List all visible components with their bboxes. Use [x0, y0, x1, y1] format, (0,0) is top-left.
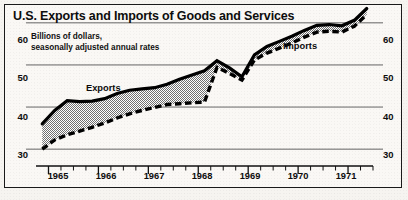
x-axis-label-1967: 1967: [132, 171, 176, 181]
x-axis-label-1968: 1968: [180, 171, 224, 181]
series-label-imports: Imports: [283, 41, 317, 51]
chart-figure: U.S. Exports and Imports of Goods and Se…: [0, 0, 408, 200]
chart-subtitle: Billions of dollars, seasonally adjusted…: [31, 32, 159, 54]
y-axis-label-left-50: 50: [6, 72, 28, 83]
y-axis-label-left-40: 40: [6, 111, 28, 122]
x-axis-label-1969: 1969: [228, 171, 272, 181]
y-axis-label-right-30: 30: [383, 149, 394, 160]
y-axis-label-left-30: 30: [6, 149, 28, 160]
series-label-exports: Exports: [86, 83, 121, 93]
y-axis-label-right-60: 60: [383, 34, 394, 45]
y-axis-label-left-60: 60: [6, 34, 28, 45]
x-axis-label-1970: 1970: [276, 171, 320, 181]
x-axis-label-1971: 1971: [324, 171, 368, 181]
x-axis-label-1965: 1965: [36, 171, 80, 181]
x-axis-label-1966: 1966: [84, 171, 128, 181]
chart-title: U.S. Exports and Imports of Goods and Se…: [13, 9, 294, 23]
chart-plot: [0, 0, 408, 200]
y-axis-label-right-50: 50: [383, 72, 394, 83]
y-axis-label-right-40: 40: [383, 111, 394, 122]
